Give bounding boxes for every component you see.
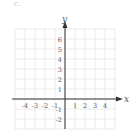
axes bbox=[12, 21, 123, 129]
x-tick-label: -3 bbox=[32, 102, 38, 110]
y-tick-label: 3 bbox=[58, 66, 62, 74]
x-tick-label: 4 bbox=[103, 102, 107, 110]
x-tick-label: 2 bbox=[83, 102, 87, 110]
y-axis-label: y bbox=[61, 14, 68, 24]
x-tick-label: 3 bbox=[93, 102, 97, 110]
x-tick-label: 1 bbox=[73, 102, 77, 110]
y-tick-label: 2 bbox=[58, 76, 62, 84]
x-axis-label: x bbox=[124, 94, 129, 104]
coordinate-plane-figure: c. -4-3-2-11234654321-1-2 x y bbox=[0, 0, 135, 134]
y-tick-label: 4 bbox=[58, 56, 62, 64]
x-tick-label: -4 bbox=[22, 102, 28, 110]
y-tick-label: 1 bbox=[58, 86, 62, 94]
y-tick-label: -2 bbox=[56, 116, 62, 124]
y-tick-label: 6 bbox=[58, 36, 62, 44]
y-tick-label: -1 bbox=[56, 106, 62, 114]
part-label: c. bbox=[14, 0, 20, 8]
x-axis-arrow-icon bbox=[116, 97, 123, 102]
coordinate-plane: -4-3-2-11234654321-1-2 x y bbox=[0, 0, 135, 134]
x-tick-label: -2 bbox=[42, 102, 48, 110]
y-tick-label: 5 bbox=[58, 46, 62, 54]
